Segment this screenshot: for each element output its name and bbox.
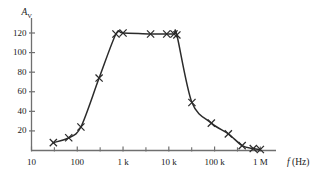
data-markers [50, 29, 264, 153]
frequency-response-plot [0, 0, 329, 179]
data-point-marker [77, 123, 84, 130]
x-tick-label: 1 M [242, 158, 278, 167]
axes [29, 18, 276, 152]
y-tick-label: 20 [5, 126, 27, 135]
data-point-marker [112, 30, 119, 37]
data-point-marker [188, 99, 195, 106]
data-point-marker [239, 142, 246, 149]
y-tick-label: 40 [5, 107, 27, 116]
y-axis-label-subscript: V [27, 12, 32, 19]
x-axis-label: f (Hz) [287, 158, 309, 168]
x-tick-label: 100 k [197, 158, 233, 167]
x-tick-label: 100 [59, 158, 95, 167]
chart-figure: AV f (Hz) 20406080100120 101001 k10 k100… [0, 0, 329, 179]
x-tick-label: 10 [14, 158, 50, 167]
x-tick-label: 1 k [105, 158, 141, 167]
y-tick-label: 60 [5, 87, 27, 96]
y-tick-label: 120 [5, 29, 27, 38]
y-axis-label: AV [22, 8, 33, 19]
data-point-marker [96, 74, 103, 81]
data-point-marker [208, 119, 215, 126]
y-tick-label: 80 [5, 68, 27, 77]
data-curve [53, 30, 260, 149]
x-tick-label: 10 k [151, 158, 187, 167]
x-axis-units: (Hz) [292, 157, 309, 167]
y-tick-label: 100 [5, 48, 27, 57]
data-point-marker [225, 130, 232, 137]
data-point-marker [65, 134, 72, 141]
